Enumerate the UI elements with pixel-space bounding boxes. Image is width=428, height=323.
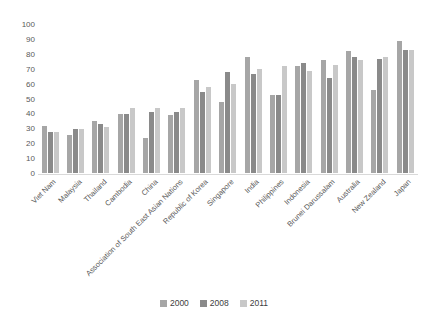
bar (180, 108, 185, 174)
bar (301, 63, 306, 173)
bar (270, 95, 275, 174)
bar (251, 74, 256, 174)
y-axis-tick-label: 100 (0, 20, 35, 29)
bar (67, 135, 72, 174)
bar (282, 66, 287, 173)
legend-item: 2000 (160, 298, 189, 308)
bar (231, 84, 236, 173)
bar (409, 50, 414, 174)
bar (143, 138, 148, 174)
bar (98, 124, 103, 173)
bar (327, 78, 332, 173)
y-axis-tick-label: 80 (0, 50, 35, 59)
legend: 200020082011 (0, 298, 428, 308)
x-axis-category-label: Japan (287, 178, 413, 304)
y-axis-tick-label: 20 (0, 139, 35, 148)
legend-swatch-icon (200, 300, 207, 307)
bar (54, 132, 59, 174)
bar (397, 41, 402, 174)
bar (371, 90, 376, 173)
bar (42, 126, 47, 174)
bar (130, 108, 135, 174)
bar (295, 66, 300, 173)
bar (200, 92, 205, 174)
bar (168, 115, 173, 173)
legend-label: 2008 (210, 298, 229, 308)
bar (245, 57, 250, 173)
bar-chart: 0102030405060708090100 Viet NamMalaysiaT… (0, 0, 428, 323)
y-axis-tick-label: 30 (0, 124, 35, 133)
y-axis-tick-label: 0 (0, 169, 35, 178)
bar (346, 51, 351, 173)
bar (257, 69, 262, 173)
bar (321, 60, 326, 173)
y-axis-tick-label: 50 (0, 95, 35, 104)
bar (194, 80, 199, 174)
bar (358, 60, 363, 173)
bar (352, 57, 357, 173)
bar (73, 129, 78, 174)
y-axis-tick-label: 90 (0, 35, 35, 44)
bar (225, 72, 230, 173)
bar (403, 50, 408, 174)
bar (104, 127, 109, 173)
bar (276, 95, 281, 174)
bar (333, 65, 338, 174)
legend-label: 2000 (170, 298, 189, 308)
bar (155, 108, 160, 174)
y-axis-tick-label: 60 (0, 80, 35, 89)
bar (377, 59, 382, 174)
bar (79, 129, 84, 174)
bar (149, 112, 154, 173)
legend-item: 2008 (200, 298, 229, 308)
legend-item: 2011 (240, 298, 268, 308)
bar (124, 114, 129, 174)
bar (206, 87, 211, 173)
bar (118, 114, 123, 174)
bar (383, 57, 388, 173)
legend-label: 2011 (250, 298, 268, 308)
y-axis-tick-label: 40 (0, 109, 35, 118)
bar (174, 112, 179, 173)
y-axis-tick-label: 70 (0, 65, 35, 74)
legend-swatch-icon (240, 300, 247, 307)
bar (48, 132, 53, 174)
legend-swatch-icon (160, 300, 167, 307)
bar (307, 71, 312, 174)
x-axis-line (38, 174, 418, 175)
x-axis-category-label: New Zealand (262, 178, 388, 304)
bar (219, 102, 224, 174)
y-axis-tick-label: 10 (0, 154, 35, 163)
bar (92, 121, 97, 173)
